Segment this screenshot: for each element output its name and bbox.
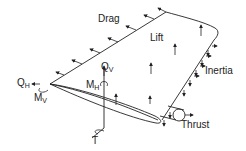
label-inertia: Inertia (205, 66, 233, 76)
wing-tip-edge (166, 12, 218, 40)
label-mh: MH (86, 80, 99, 90)
label-thrust: Thrust (181, 120, 209, 130)
trailing-edge (162, 40, 214, 120)
label-qv: QV (101, 62, 113, 72)
label-torque: T (92, 136, 98, 146)
label-qh: QH (17, 78, 30, 88)
label-mv: MV (34, 93, 47, 103)
label-drag: Drag (98, 14, 120, 24)
root-airfoil (50, 84, 161, 123)
label-lift: Lift (150, 33, 163, 43)
